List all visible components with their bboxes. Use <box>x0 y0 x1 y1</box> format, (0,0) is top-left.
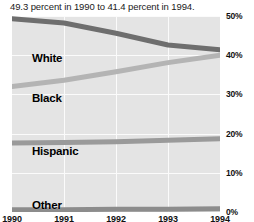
y-tick-label: 10% <box>226 168 242 178</box>
y-tick-label: 20% <box>226 129 242 139</box>
y-tick-label: 50% <box>226 11 242 21</box>
series-lines <box>12 16 220 212</box>
series-line-white <box>12 19 220 50</box>
x-tick-label: 1994 <box>210 214 230 222</box>
x-tick-label: 1992 <box>106 214 126 222</box>
series-label-hispanic: Hispanic <box>32 145 78 157</box>
y-tick-label: 30% <box>226 89 242 99</box>
plot-area: WhiteBlackHispanicOther <box>12 16 220 212</box>
series-label-black: Black <box>32 92 62 104</box>
y-tick-label: 40% <box>226 50 242 60</box>
x-tick-label: 1990 <box>2 214 22 222</box>
x-tick-label: 1993 <box>158 214 178 222</box>
line-chart: WhiteBlackHispanicOther 0%10%20%30%40%50… <box>0 14 254 222</box>
caption-text: 49.3 percent in 1990 to 41.4 percent in … <box>10 1 246 12</box>
x-tick-label: 1991 <box>54 214 74 222</box>
series-label-white: White <box>32 52 62 64</box>
series-label-other: Other <box>32 199 62 211</box>
series-line-hispanic <box>12 139 220 143</box>
